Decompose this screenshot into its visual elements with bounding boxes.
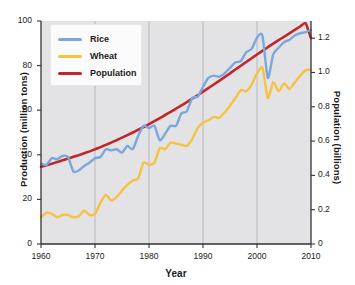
legend-item-population: Population [58, 65, 137, 81]
y-tick-label-right: 1.0 [318, 66, 342, 76]
legend-item-rice: Rice [58, 31, 109, 47]
x-tick-label: 1980 [129, 251, 169, 261]
y-tick-label-left: 40 [10, 149, 32, 159]
x-tick-label: 1990 [183, 251, 223, 261]
x-tick-label: 2010 [291, 251, 331, 261]
legend-swatch-population [58, 72, 82, 75]
x-tick-label: 2000 [237, 251, 277, 261]
y-tick-label-right: 0.4 [318, 169, 342, 179]
legend-label-wheat: Wheat [90, 51, 117, 61]
legend-label-rice: Rice [90, 34, 109, 44]
legend-label-population: Population [90, 68, 137, 78]
chart-legend: Rice Wheat Population [50, 24, 142, 86]
y-tick-label-right: 0.6 [318, 135, 342, 145]
legend-item-wheat: Wheat [58, 48, 117, 64]
chart-figure: Production (million tons) Population (bi… [0, 0, 355, 285]
y-tick-label-right: 1.2 [318, 32, 342, 42]
x-tick-label: 1960 [21, 251, 61, 261]
x-tick-label: 1970 [75, 251, 115, 261]
y-axis-title-left: Production (million tons) [18, 55, 29, 205]
x-axis-title: Year [41, 268, 311, 279]
y-tick-label-left: 20 [10, 193, 32, 203]
y-tick-label-left: 80 [10, 60, 32, 70]
legend-swatch-wheat [58, 55, 82, 58]
legend-swatch-rice [58, 38, 82, 41]
y-tick-label-right: 0.8 [318, 101, 342, 111]
y-tick-label-left: 100 [10, 15, 32, 25]
y-tick-label-right: 0 [318, 238, 342, 248]
y-tick-label-right: 0.2 [318, 204, 342, 214]
y-tick-label-left: 60 [10, 104, 32, 114]
y-tick-label-left: 0 [10, 238, 32, 248]
